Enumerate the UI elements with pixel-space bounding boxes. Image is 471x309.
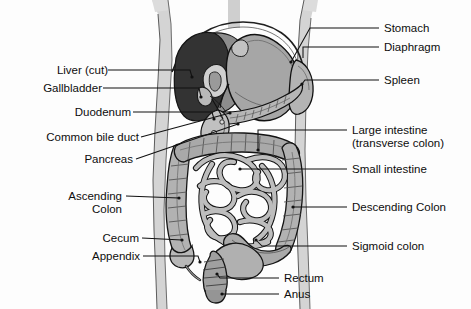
label-cecum[interactable]: Cecum [0, 232, 139, 245]
label-rectum[interactable]: Rectum [284, 272, 324, 285]
label-liver-cut[interactable]: Liver (cut) [0, 64, 108, 77]
label-common-bile-duct-text: Common bile duct [46, 131, 139, 143]
label-ascending-colon-line1: Ascending [0, 190, 122, 203]
label-large-intestine-line1: Large intestine [352, 124, 471, 137]
label-sigmoid-colon[interactable]: Sigmoid colon [352, 240, 424, 253]
label-appendix-text: Appendix [92, 250, 140, 262]
label-small-intestine[interactable]: Small intestine [352, 163, 427, 176]
anatomy-diagram-figure: Liver (cut) Gallbladder Duodenum Common … [0, 0, 471, 309]
label-duodenum[interactable]: Duodenum [0, 106, 131, 119]
label-duodenum-text: Duodenum [75, 106, 131, 118]
label-common-bile-duct[interactable]: Common bile duct [0, 131, 139, 144]
label-anus[interactable]: Anus [284, 288, 310, 301]
label-gallbladder[interactable]: Gallbladder [0, 82, 102, 95]
label-anus-text: Anus [284, 288, 310, 300]
label-ascending-colon-line2: Colon [0, 203, 122, 216]
label-stomach-text: Stomach [384, 22, 429, 34]
label-diaphragm[interactable]: Diaphragm [384, 41, 440, 54]
label-descending-colon[interactable]: Descending Colon [352, 201, 446, 214]
label-cecum-text: Cecum [103, 232, 139, 244]
label-rectum-text: Rectum [284, 272, 324, 284]
label-spleen-text: Spleen [384, 74, 420, 86]
label-pancreas-text: Pancreas [84, 153, 133, 165]
label-diaphragm-text: Diaphragm [384, 41, 440, 53]
label-spleen[interactable]: Spleen [384, 74, 420, 87]
label-liver-cut-text: Liver (cut) [57, 64, 108, 76]
label-large-intestine[interactable]: Large intestine (transverse colon) [352, 124, 471, 150]
label-large-intestine-line2: (transverse colon) [352, 137, 471, 150]
label-pancreas[interactable]: Pancreas [0, 153, 133, 166]
label-descending-colon-text: Descending Colon [352, 201, 446, 213]
label-appendix[interactable]: Appendix [0, 250, 140, 263]
label-ascending-colon[interactable]: Ascending Colon [0, 190, 122, 216]
label-small-intestine-text: Small intestine [352, 163, 427, 175]
label-sigmoid-colon-text: Sigmoid colon [352, 240, 424, 252]
label-stomach[interactable]: Stomach [384, 22, 429, 35]
label-gallbladder-text: Gallbladder [43, 82, 102, 94]
